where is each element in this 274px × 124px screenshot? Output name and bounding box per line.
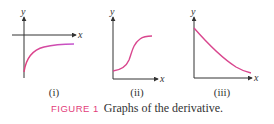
y-axis-label: y: [109, 6, 115, 17]
graph-panel-iii: y x: [190, 6, 259, 83]
figure-graphs: y x y x y x: [0, 0, 274, 100]
panel-label-i: (i): [39, 86, 69, 98]
x-axis-label: x: [77, 29, 83, 40]
graph-panel-ii: y x: [109, 6, 165, 84]
derivative-curve: [194, 28, 251, 73]
y-axis-label: y: [20, 6, 26, 17]
x-axis-label: x: [253, 72, 259, 83]
figure-caption: FIGURE 1Graphs of the derivative.: [0, 101, 274, 116]
y-axis-label: y: [190, 6, 196, 17]
figure-tag: FIGURE 1: [51, 103, 99, 114]
graph-panel-i: y x: [12, 6, 83, 78]
figure-tag-word: FIGURE: [51, 103, 90, 114]
derivative-curve: [113, 36, 152, 71]
caption-text: Graphs of the derivative.: [104, 101, 223, 115]
panel-label-ii: (ii): [122, 86, 152, 98]
derivative-curve: [24, 44, 74, 72]
x-axis-label: x: [159, 73, 165, 84]
panel-label-iii: (iii): [207, 86, 237, 98]
figure-number: 1: [93, 103, 99, 114]
